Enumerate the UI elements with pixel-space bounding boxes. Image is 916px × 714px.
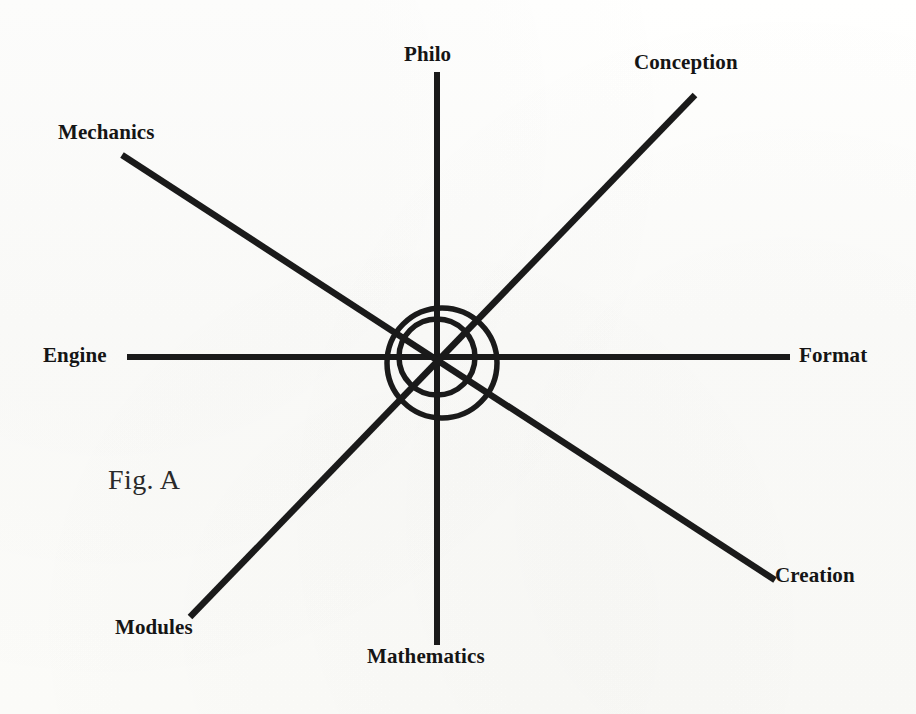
axis-label-mathematics: Mathematics: [367, 646, 485, 667]
axis-label-conception: Conception: [634, 52, 738, 73]
axis-line-mechanics-creation: [122, 155, 775, 580]
axis-label-modules: Modules: [115, 617, 193, 638]
radial-axis-diagram: [0, 0, 916, 714]
axis-label-format: Format: [799, 345, 867, 366]
figure-caption: Fig. A: [108, 466, 180, 494]
axis-label-philo: Philo: [404, 44, 451, 65]
figure-canvas: Philo Conception Mechanics Engine Format…: [0, 0, 916, 714]
axis-label-engine: Engine: [43, 345, 107, 366]
axis-label-mechanics: Mechanics: [58, 122, 155, 143]
axis-label-creation: Creation: [775, 565, 855, 586]
